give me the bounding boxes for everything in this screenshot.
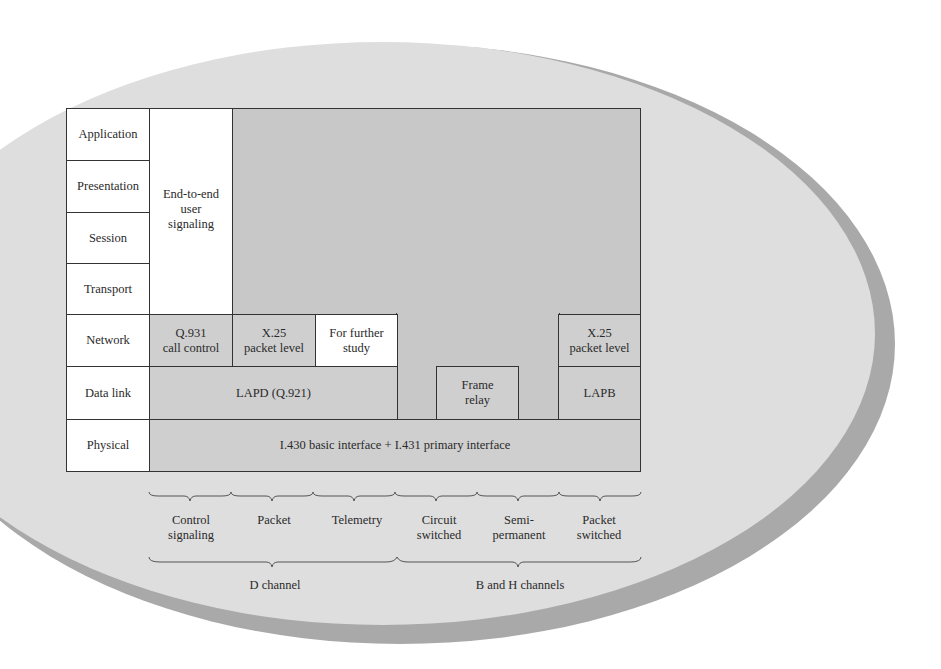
- layer-application: Application: [66, 108, 150, 161]
- service-braces: [148, 490, 644, 504]
- unspecified-upper-area: [231, 108, 641, 315]
- physical-interface: I.430 basic interface + I.431 primary in…: [149, 419, 641, 472]
- channel-b-and-h: B and H channels: [440, 578, 600, 593]
- frame-relay-box: Frame relay: [436, 366, 519, 420]
- service-circuit-switched: Circuit switched: [397, 513, 481, 543]
- lapb: LAPB: [558, 366, 641, 420]
- x25-packet-level-d: X.25 packet level: [232, 314, 316, 367]
- channel-braces: [148, 555, 644, 571]
- q931-call-control: Q.931 call control: [149, 314, 233, 367]
- service-control-signaling: Control signaling: [149, 513, 233, 543]
- layer-data-link: Data link: [66, 366, 150, 420]
- lapd-q921: LAPD (Q.921): [149, 366, 398, 420]
- end-to-end-user-signaling: End-to-end user signaling: [149, 108, 233, 315]
- layer-presentation: Presentation: [66, 160, 150, 213]
- channel-d: D channel: [200, 578, 350, 593]
- layer-session: Session: [66, 212, 150, 264]
- service-telemetry: Telemetry: [315, 513, 399, 528]
- layer-network: Network: [66, 314, 150, 367]
- service-packet: Packet: [232, 513, 316, 528]
- layer-physical: Physical: [66, 419, 150, 472]
- service-semi-permanent: Semi- permanent: [477, 513, 561, 543]
- service-packet-switched: Packet switched: [557, 513, 641, 543]
- x25-packet-level-b: X.25 packet level: [558, 314, 641, 367]
- for-further-study: For further study: [315, 314, 398, 367]
- layer-transport: Transport: [66, 263, 150, 315]
